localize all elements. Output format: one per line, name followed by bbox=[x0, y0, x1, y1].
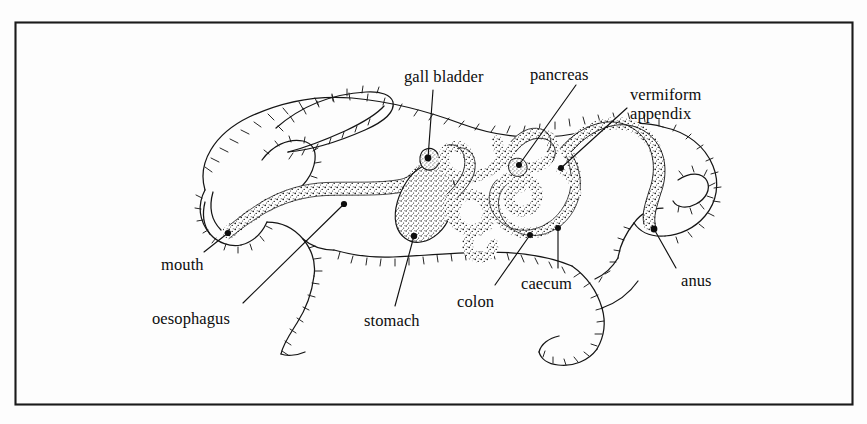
label-stomach: stomach bbox=[364, 312, 420, 330]
label-vermiform-appendix: vermiform appendix bbox=[630, 85, 701, 123]
oesophagus-marker bbox=[341, 201, 347, 207]
anus-marker bbox=[651, 226, 658, 233]
mouth-marker bbox=[225, 230, 231, 236]
label-caecum: caecum bbox=[521, 275, 572, 293]
stomach-leader bbox=[395, 236, 414, 306]
label-anus: anus bbox=[681, 272, 712, 290]
pancreas-marker bbox=[516, 162, 522, 168]
anatomical-diagram bbox=[0, 0, 867, 424]
gall-bladder-marker bbox=[425, 155, 432, 162]
appendix-marker bbox=[558, 165, 564, 171]
caecum-marker bbox=[555, 225, 561, 231]
gall-bladder-leader bbox=[428, 90, 433, 158]
label-mouth: mouth bbox=[161, 256, 204, 274]
oesophagus-leader bbox=[243, 204, 344, 303]
label-oesophagus: oesophagus bbox=[152, 310, 230, 328]
stomach-marker bbox=[411, 233, 417, 239]
figure-root: gall bladderpancreasvermiform appendixmo… bbox=[0, 0, 867, 424]
oesophagus-tube bbox=[229, 166, 420, 239]
label-pancreas: pancreas bbox=[530, 66, 589, 84]
colon-marker bbox=[527, 232, 533, 238]
label-gall-bladder: gall bladder bbox=[404, 68, 484, 86]
label-colon: colon bbox=[457, 293, 494, 311]
